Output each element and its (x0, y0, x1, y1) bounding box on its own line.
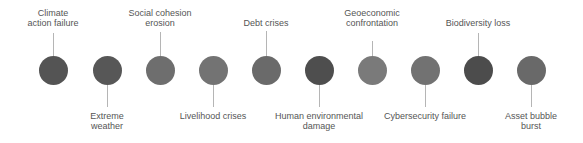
connector-line (478, 33, 479, 56)
risk-label-line: Human environmental (259, 111, 379, 121)
risk-circle-marker (464, 56, 493, 85)
risk-label-line: Asset bubble (471, 111, 583, 121)
risk-label: Geoeconomicconfrontation (312, 8, 432, 28)
risk-circle-marker (305, 56, 334, 85)
connector-line (372, 41, 373, 56)
connector-line (53, 33, 54, 56)
risk-label-line: weather (47, 121, 167, 131)
risk-label: Debt crises (206, 18, 326, 28)
risk-label: Extremeweather (47, 111, 167, 131)
risk-label: Social cohesionerosion (100, 8, 220, 28)
risk-label: Climateaction failure (0, 8, 113, 28)
risk-circle-marker (93, 56, 122, 85)
connector-line (425, 85, 426, 107)
risk-circle-marker (39, 56, 68, 85)
risk-label-line: Social cohesion (100, 8, 220, 18)
risk-circle-marker (146, 56, 175, 85)
risk-label: Human environmentaldamage (259, 111, 379, 131)
risk-label: Asset bubbleburst (471, 111, 583, 131)
risk-circle-marker (411, 56, 440, 85)
risk-label-line: Extreme (47, 111, 167, 121)
connector-line (319, 85, 320, 107)
risk-label-line: Cybersecurity failure (365, 111, 485, 121)
risk-label-line: Climate (0, 8, 113, 18)
risk-diagram: Climateaction failureExtremeweatherSocia… (0, 0, 583, 143)
risk-label-line: damage (259, 121, 379, 131)
connector-line (160, 32, 161, 56)
risk-circle-marker (199, 56, 228, 85)
risk-circle-marker (252, 56, 281, 85)
risk-label-line: action failure (0, 18, 113, 28)
risk-circle-marker (517, 56, 546, 85)
risk-label-line: Debt crises (206, 18, 326, 28)
risk-label-line: erosion (100, 18, 220, 28)
risk-label: Cybersecurity failure (365, 111, 485, 121)
risk-label: Livelihood crises (153, 111, 273, 121)
risk-circle-marker (358, 56, 387, 85)
connector-line (266, 31, 267, 56)
risk-label-line: confrontation (312, 18, 432, 28)
risk-label: Biodiversity loss (418, 18, 538, 28)
risk-label-line: burst (471, 121, 583, 131)
connector-line (107, 85, 108, 107)
risk-label-line: Biodiversity loss (418, 18, 538, 28)
connector-line (531, 85, 532, 107)
risk-label-line: Livelihood crises (153, 111, 273, 121)
connector-line (213, 85, 214, 107)
risk-label-line: Geoeconomic (312, 8, 432, 18)
